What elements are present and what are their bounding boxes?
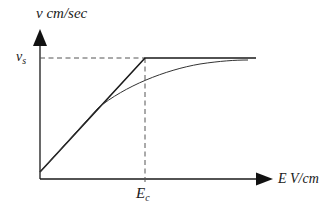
ec-label-main: E (136, 185, 145, 201)
y-axis-arrow-icon (33, 29, 47, 46)
y-axis-label: v cm/sec (36, 6, 87, 21)
x-axis-label: E V/cm (278, 172, 319, 186)
vs-label-sub: s (22, 55, 26, 66)
ec-label: Ec (136, 186, 150, 201)
ec-label-sub: c (145, 192, 149, 203)
x-axis-arrow-icon (256, 173, 273, 186)
actual-curve (40, 60, 248, 172)
vs-label: vs (16, 50, 26, 64)
piecewise-linear-line (40, 58, 256, 172)
